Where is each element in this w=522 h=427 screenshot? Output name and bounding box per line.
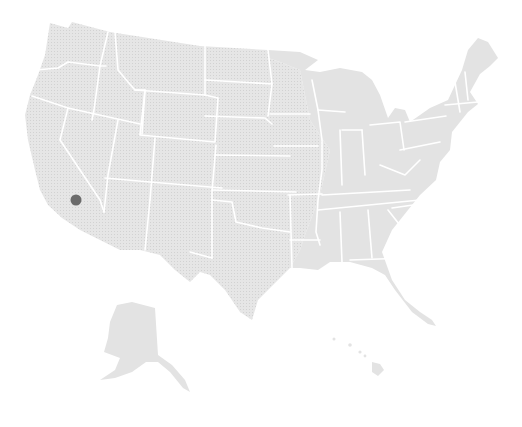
us-map: [0, 0, 522, 427]
alaska: [100, 302, 190, 392]
western-states: [25, 22, 330, 320]
hawaii: [333, 338, 385, 377]
location-marker[interactable]: [71, 195, 82, 206]
contiguous-us: [25, 22, 498, 326]
